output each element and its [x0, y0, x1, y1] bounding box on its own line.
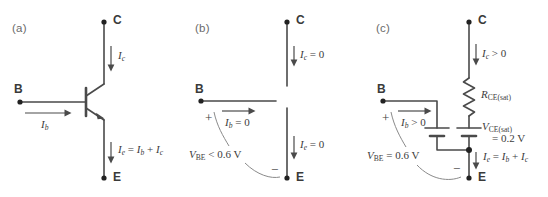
- base-terminal-dot: [198, 98, 203, 103]
- panel-b-collector-current-label: Ic = 0: [300, 48, 324, 62]
- panel-b-label: (b): [195, 22, 210, 34]
- collector-slant: [86, 84, 104, 96]
- panel-c-terminal-e-label: E: [478, 170, 486, 184]
- panel-b-base-current-label: Ib = 0: [225, 116, 250, 130]
- panel-a-terminal-e-label: E: [113, 170, 121, 184]
- panel-a-terminal-c-label: C: [113, 13, 122, 27]
- panel-b-terminal-e-label: E: [296, 170, 304, 184]
- panel-c-terminal-b-label: B: [377, 82, 386, 96]
- panel-b-polarity-minus: −: [271, 163, 278, 176]
- collector-terminal-dot: [466, 19, 471, 24]
- panel-a-active-mode: (a) C B E Ic Ib Ie = Ib + Ic: [0, 0, 183, 197]
- panel-b-base-emitter-voltage-label: VBE < 0.6 V: [189, 148, 241, 162]
- panel-a-collector-current-label: Ic: [118, 49, 125, 63]
- collector-terminal-dot: [101, 19, 106, 24]
- panel-b-polarity-plus: +: [205, 111, 212, 124]
- panel-c-saturation-resistor-label: RCE(sat): [481, 88, 511, 102]
- panel-a-emitter-current-label: Ie = Ib + Ic: [118, 143, 163, 157]
- panel-c-ce-saturation-value-label: = 0.2 V: [492, 132, 525, 144]
- panel-c-saturation-mode: (c) C B E + − Ic > 0 Ib > 0 RCE(sat) VCE…: [365, 0, 548, 197]
- panel-c-base-current-label: Ib > 0: [401, 116, 426, 130]
- emitter-junction-dot: [466, 147, 472, 153]
- collector-current-arrow-icon: [108, 46, 115, 72]
- collector-terminal-dot: [284, 19, 289, 24]
- emitter-current-arrow-icon: [473, 152, 480, 170]
- emitter-current-arrow-icon: [291, 136, 298, 160]
- saturation-resistor-symbol: [464, 78, 475, 116]
- panel-c-label: (c): [376, 22, 390, 34]
- base-terminal-dot: [17, 99, 22, 104]
- panel-c-base-emitter-voltage-label: VBE = 0.6 V: [367, 149, 419, 163]
- collector-current-arrow-icon: [473, 44, 480, 66]
- panel-b-emitter-current-label: Ie = 0: [300, 138, 324, 152]
- panel-b-cutoff-mode: (b) C B E + − Ic = 0 Ib = 0 Ie = 0 VBE <…: [183, 0, 366, 197]
- emitter-current-arrow-icon: [108, 142, 115, 164]
- panel-c-polarity-plus: +: [382, 111, 389, 124]
- transistor-operating-modes-figure: (a) C B E Ic Ib Ie = Ib + Ic: [0, 0, 548, 197]
- base-current-arrow-icon: [25, 110, 72, 117]
- base-current-arrow-icon: [398, 108, 432, 115]
- emitter-terminal-dot: [284, 175, 289, 180]
- panel-a-base-current-label: Ib: [41, 118, 48, 132]
- panel-c-emitter-current-label: Ie = Ib + Ic: [483, 150, 528, 164]
- panel-c-terminal-c-label: C: [478, 13, 487, 27]
- panel-c-collector-current-label: Ic > 0: [482, 47, 506, 61]
- panel-a-circuit-drawing: [0, 0, 183, 197]
- emitter-terminal-dot: [101, 175, 106, 180]
- collector-current-arrow-icon: [291, 46, 298, 67]
- panel-b-terminal-c-label: C: [296, 13, 305, 27]
- base-terminal-dot: [380, 98, 385, 103]
- emitter-arrowhead-icon: [96, 113, 105, 119]
- panel-b-terminal-b-label: B: [195, 82, 204, 96]
- panel-a-terminal-b-label: B: [14, 82, 23, 96]
- panel-a-label: (a): [12, 22, 27, 34]
- panel-c-polarity-minus: −: [453, 162, 460, 175]
- emitter-terminal-dot: [466, 175, 471, 180]
- base-current-arrow-icon: [222, 108, 256, 115]
- be-battery-to-node-wire: [437, 136, 469, 150]
